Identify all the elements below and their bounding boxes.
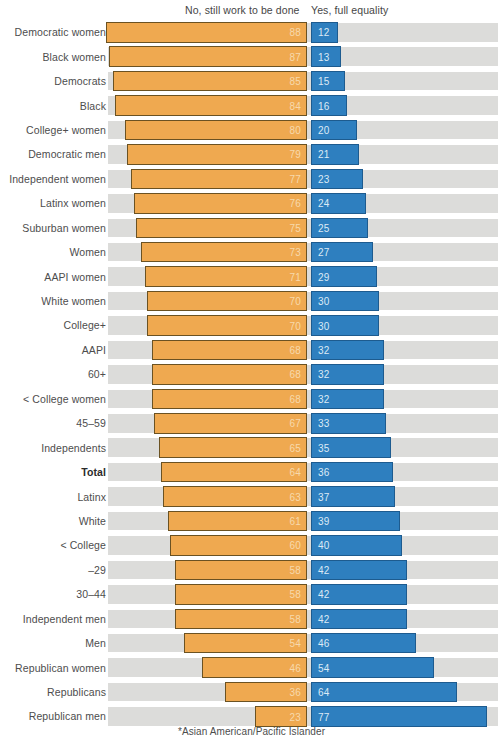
- bar-no-still-work: 88: [106, 22, 307, 43]
- bar-no-still-work: 58: [175, 609, 307, 630]
- bar-no-still-work: 87: [109, 46, 307, 67]
- bar-no-still-work: 63: [163, 486, 307, 507]
- bar-yes-full-equality: 42: [311, 609, 407, 630]
- chart-row: College+ women8020: [0, 118, 503, 142]
- bar-value-yes: 32: [318, 369, 330, 380]
- chart-row: < College women6832: [0, 387, 503, 411]
- bar-yes-full-equality: 42: [311, 560, 407, 581]
- bar-value-yes: 32: [318, 393, 330, 404]
- bar-value-yes: 12: [318, 27, 330, 38]
- bar-no-still-work: 77: [131, 169, 307, 190]
- row-label: Black: [80, 100, 106, 112]
- chart-rows: Democratic women8812Black women8713Democ…: [0, 20, 503, 729]
- bar-no-still-work: 64: [161, 462, 307, 483]
- bar-no-still-work: 60: [170, 535, 307, 556]
- row-label: –29: [88, 564, 106, 576]
- row-label: Women: [70, 246, 107, 258]
- chart-row: Democratic women8812: [0, 20, 503, 44]
- chart-row: 60+6832: [0, 362, 503, 386]
- bar-no-still-work: 58: [175, 560, 307, 581]
- bar-no-still-work: 84: [115, 95, 307, 116]
- bar-value-no: 84: [289, 100, 301, 111]
- row-label: Suburban women: [22, 222, 106, 234]
- chart-row: Independents6535: [0, 435, 503, 459]
- chart-row: Women7327: [0, 240, 503, 264]
- bar-value-no: 88: [289, 27, 301, 38]
- bar-value-yes: 46: [318, 638, 330, 649]
- bar-no-still-work: 36: [225, 682, 307, 703]
- row-label: Republican women: [15, 662, 106, 674]
- chart-row: AAPI women7129: [0, 264, 503, 288]
- bar-value-no: 75: [289, 222, 301, 233]
- chart-row: Men5446: [0, 631, 503, 655]
- bar-value-no: 68: [289, 369, 301, 380]
- bar-value-no: 68: [289, 393, 301, 404]
- bar-value-no: 58: [289, 564, 301, 575]
- row-label: AAPI women: [44, 271, 106, 283]
- bar-no-still-work: 65: [159, 437, 307, 458]
- chart-row: White women7030: [0, 289, 503, 313]
- bar-value-no: 64: [289, 467, 301, 478]
- bar-yes-full-equality: 32: [311, 364, 384, 385]
- chart-row: Independent women7723: [0, 167, 503, 191]
- bar-value-no: 65: [289, 442, 301, 453]
- row-label: < College: [60, 539, 106, 551]
- bar-value-no: 70: [289, 296, 301, 307]
- chart-row: Latinx6337: [0, 484, 503, 508]
- bar-no-still-work: 23: [255, 706, 307, 727]
- bar-yes-full-equality: 30: [311, 291, 379, 312]
- bar-value-yes: 42: [318, 589, 330, 600]
- row-label: AAPI: [82, 344, 106, 356]
- row-label: 45–59: [76, 417, 106, 429]
- chart-row: AAPI6832: [0, 338, 503, 362]
- chart-row: Democratic men7921: [0, 142, 503, 166]
- bar-no-still-work: 67: [154, 413, 307, 434]
- row-label: Independents: [41, 442, 106, 454]
- bar-yes-full-equality: 30: [311, 315, 379, 336]
- bar-value-no: 79: [289, 149, 301, 160]
- bar-value-yes: 37: [318, 491, 330, 502]
- bar-value-no: 61: [289, 516, 301, 527]
- bar-yes-full-equality: 27: [311, 242, 373, 263]
- bar-value-yes: 25: [318, 222, 330, 233]
- bar-value-yes: 42: [318, 613, 330, 624]
- chart-row: Suburban women7525: [0, 216, 503, 240]
- chart-row: Total6436: [0, 460, 503, 484]
- chart-legend: No, still work to be done Yes, full equa…: [0, 3, 503, 19]
- bar-no-still-work: 61: [168, 511, 307, 532]
- row-label: Latinx: [77, 491, 106, 503]
- chart-row: Republicans3664: [0, 680, 503, 704]
- bar-value-no: 58: [289, 589, 301, 600]
- bar-value-yes: 30: [318, 296, 330, 307]
- bar-yes-full-equality: 29: [311, 266, 377, 287]
- bar-value-yes: 23: [318, 173, 330, 184]
- bar-value-no: 68: [289, 344, 301, 355]
- bar-yes-full-equality: 40: [311, 535, 402, 556]
- row-label: Democratic women: [15, 26, 106, 38]
- bar-value-no: 67: [289, 418, 301, 429]
- bar-value-no: 77: [289, 173, 301, 184]
- row-label: Total: [81, 466, 106, 478]
- bar-value-no: 73: [289, 247, 301, 258]
- row-label: Independent men: [23, 613, 106, 625]
- bar-value-no: 76: [289, 198, 301, 209]
- bar-value-yes: 36: [318, 467, 330, 478]
- bar-value-no: 46: [289, 662, 301, 673]
- bar-yes-full-equality: 12: [311, 22, 338, 43]
- chart-footnote: *Asian American/Pacific Islander: [0, 726, 503, 737]
- chart-row: Independent men5842: [0, 607, 503, 631]
- row-label: White: [79, 515, 106, 527]
- bar-no-still-work: 85: [113, 71, 307, 92]
- bar-value-yes: 27: [318, 247, 330, 258]
- bar-yes-full-equality: 39: [311, 511, 400, 532]
- chart-row: 30–445842: [0, 582, 503, 606]
- bar-value-no: 80: [289, 125, 301, 136]
- bar-no-still-work: 54: [184, 633, 307, 654]
- bar-value-no: 60: [289, 540, 301, 551]
- bar-yes-full-equality: 42: [311, 584, 407, 605]
- bar-value-yes: 35: [318, 442, 330, 453]
- bar-value-no: 87: [289, 51, 301, 62]
- row-label: Black women: [42, 51, 106, 63]
- row-label: Independent women: [9, 173, 106, 185]
- chart-row: –295842: [0, 558, 503, 582]
